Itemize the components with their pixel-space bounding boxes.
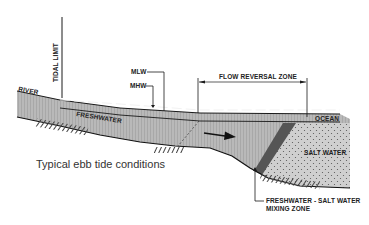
ocean-label: OCEAN xyxy=(315,115,339,122)
tidal-limit-label: TIDAL LIMIT xyxy=(52,43,59,82)
mlw-label: MLW xyxy=(131,68,147,75)
flow-reversal-zone-label: FLOW REVERSAL ZONE xyxy=(219,73,297,80)
estuary-diagram: TIDAL LIMIT RIVER MLW MHW FLOW REVERSAL … xyxy=(0,0,369,225)
left-arrowhead-icon xyxy=(199,81,205,84)
ground-hatch-2 xyxy=(154,147,184,153)
salt-water-label: SALT WATER xyxy=(304,149,346,156)
mixing-zone-label-line1: FRESHWATER - SALT WATER xyxy=(266,197,361,204)
mixing-zone-label-line2: MIXING ZONE xyxy=(266,205,311,212)
mhw-leader xyxy=(146,86,153,107)
mhw-label: MHW xyxy=(130,82,147,89)
right-arrowhead-icon xyxy=(300,81,306,84)
mlw-leader xyxy=(147,72,164,111)
diagram-caption: Typical ebb tide conditions xyxy=(36,158,166,170)
